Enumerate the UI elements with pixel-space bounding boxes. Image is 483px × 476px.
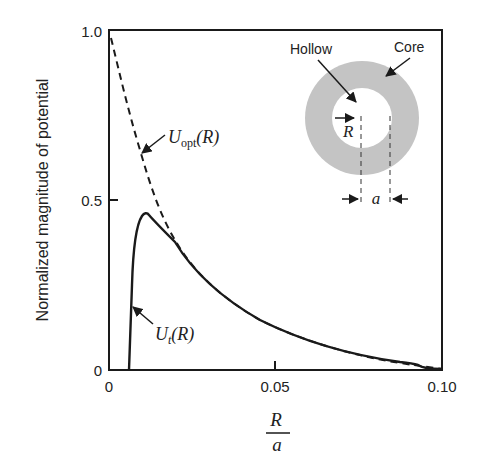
x-tick-label-0: 0: [105, 378, 113, 395]
ut-arrow: [133, 307, 153, 324]
inset-core-label: Core: [394, 39, 425, 55]
x-axis-title-numerator: R: [269, 409, 282, 430]
y-tick-label-0: 0: [94, 362, 102, 379]
uopt-label: Uopt(R): [168, 127, 219, 150]
inset-R-label: R: [342, 122, 354, 141]
series-ut-solid: [129, 213, 442, 370]
y-tick-label-1.0: 1.0: [81, 23, 102, 40]
ut-label: Ut(R): [155, 324, 194, 347]
inset-a-label: a: [372, 189, 381, 208]
y-tick-label-0.5: 0.5: [81, 192, 102, 209]
x-tick-label-0.05: 0.05: [260, 378, 289, 395]
inset-hollow-label: Hollow: [290, 41, 333, 57]
chart: 1.0 0.5 0 0 0.05 0.10 Normalized magnitu…: [0, 0, 483, 476]
x-tick-label-0.10: 0.10: [427, 378, 456, 395]
uopt-arrow: [142, 135, 165, 153]
x-axis-title-denominator: a: [272, 434, 282, 455]
inset-fiber-diagram: R a Hollow Core: [290, 39, 425, 208]
inset-core-arrow: [386, 58, 410, 76]
y-axis-title: Normalized magnitude of potential: [34, 79, 51, 322]
